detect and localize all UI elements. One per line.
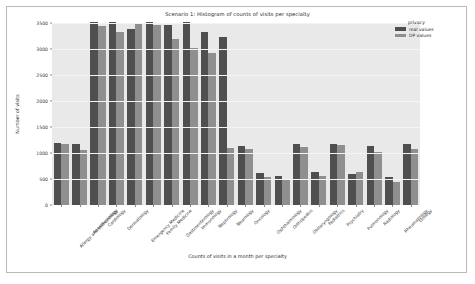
bar bbox=[411, 149, 419, 205]
bar bbox=[256, 173, 264, 205]
gridline bbox=[52, 127, 420, 128]
gridline bbox=[52, 153, 420, 154]
x-axis-tick-label: Psychiatry bbox=[346, 208, 365, 227]
x-axis-tick-mark bbox=[374, 205, 375, 207]
bar-group bbox=[236, 23, 254, 205]
chart-title: Scenario 1: Histogram of counts of visit… bbox=[0, 11, 475, 17]
x-axis-tick-mark bbox=[153, 205, 154, 207]
bar-group bbox=[144, 23, 162, 205]
gridline bbox=[52, 75, 420, 76]
legend-swatch bbox=[395, 27, 406, 31]
x-axis-tick-mark bbox=[392, 205, 393, 207]
x-axis-tick-mark bbox=[319, 205, 320, 207]
bar-group bbox=[89, 23, 107, 205]
bar bbox=[172, 39, 180, 205]
y-axis-label: Number of visits bbox=[15, 59, 20, 169]
x-axis-tick-mark bbox=[61, 205, 62, 207]
gridline bbox=[52, 101, 420, 102]
plot-area bbox=[52, 23, 420, 205]
bar bbox=[319, 176, 327, 205]
x-axis-tick-label: Dermatology bbox=[127, 208, 150, 231]
x-axis-tick-mark bbox=[116, 205, 117, 207]
bar-group bbox=[347, 23, 365, 205]
bar bbox=[245, 149, 253, 205]
bar-group bbox=[181, 23, 199, 205]
x-axis-tick-mark bbox=[208, 205, 209, 207]
bar bbox=[282, 180, 290, 205]
x-axis-tick-mark bbox=[135, 205, 136, 207]
x-axis-tick-mark bbox=[282, 205, 283, 207]
x-axis-tick-mark bbox=[190, 205, 191, 207]
bar bbox=[385, 177, 393, 205]
y-axis-tick-label: 2500 bbox=[36, 73, 48, 78]
legend-entry-label: real values bbox=[409, 27, 434, 32]
x-axis-tick-mark bbox=[337, 205, 338, 207]
bar-group bbox=[254, 23, 272, 205]
x-axis-tick-mark bbox=[245, 205, 246, 207]
x-axis-tick-label: Emergency Medicine bbox=[150, 208, 185, 243]
gridline bbox=[52, 49, 420, 50]
bar bbox=[80, 150, 88, 205]
bar bbox=[264, 177, 272, 205]
y-axis: Number of visits 05001000150020002500300… bbox=[0, 23, 52, 205]
y-axis-tick-label: 500 bbox=[39, 177, 48, 182]
x-axis-tick-label: Oncology bbox=[253, 208, 271, 226]
x-axis-tick-mark bbox=[411, 205, 412, 207]
legend-entries: real valuesDP values bbox=[395, 27, 463, 39]
bar-group bbox=[291, 23, 309, 205]
bar bbox=[367, 146, 375, 205]
bar-group bbox=[218, 23, 236, 205]
y-axis-tick-label: 0 bbox=[45, 203, 48, 208]
x-axis-tick-mark bbox=[300, 205, 301, 207]
bar bbox=[164, 25, 172, 205]
figure-canvas: Scenario 1: Histogram of counts of visit… bbox=[0, 0, 475, 284]
bar-group bbox=[273, 23, 291, 205]
bar bbox=[227, 148, 235, 205]
legend-entry: real values bbox=[395, 27, 463, 32]
y-axis-tick-label: 2000 bbox=[36, 99, 48, 104]
bar-group bbox=[383, 23, 401, 205]
y-axis-tick-label: 3500 bbox=[36, 21, 48, 26]
bar-group bbox=[107, 23, 125, 205]
bar-group bbox=[199, 23, 217, 205]
y-axis-tick-label: 3000 bbox=[36, 47, 48, 52]
legend-entry-label: DP values bbox=[409, 33, 431, 38]
x-axis-tick-mark bbox=[98, 205, 99, 207]
bar bbox=[356, 172, 364, 205]
bar bbox=[300, 147, 308, 205]
bar-group bbox=[162, 23, 180, 205]
x-axis-tick-mark bbox=[264, 205, 265, 207]
gridline bbox=[52, 23, 420, 24]
bar-series-container bbox=[52, 23, 420, 205]
x-axis-tick-mark bbox=[356, 205, 357, 207]
x-axis-tick-mark bbox=[172, 205, 173, 207]
bar bbox=[135, 24, 143, 205]
bar bbox=[238, 146, 246, 205]
bar-group bbox=[365, 23, 383, 205]
y-axis-tick-label: 1000 bbox=[36, 151, 48, 156]
bar bbox=[153, 25, 161, 205]
legend-entry: DP values bbox=[395, 33, 463, 38]
bar-group bbox=[52, 23, 70, 205]
legend: privacy real valuesDP values bbox=[395, 20, 463, 40]
bar-group bbox=[126, 23, 144, 205]
gridline bbox=[52, 179, 420, 180]
bar-group bbox=[70, 23, 88, 205]
y-axis-tick-label: 1500 bbox=[36, 125, 48, 130]
bar-group bbox=[310, 23, 328, 205]
legend-swatch bbox=[395, 34, 406, 38]
bar-group bbox=[328, 23, 346, 205]
x-axis: Allergy and ImmunologyAnesthesiologyCard… bbox=[52, 205, 420, 250]
legend-title: privacy bbox=[408, 20, 463, 25]
x-axis-tick-mark bbox=[227, 205, 228, 207]
bar-group bbox=[402, 23, 420, 205]
bar bbox=[337, 145, 345, 205]
bar bbox=[275, 176, 283, 205]
bar bbox=[393, 182, 401, 205]
x-axis-tick-mark bbox=[80, 205, 81, 207]
x-axis-label: Counts of visits in a month per specialt… bbox=[0, 253, 475, 259]
bar bbox=[311, 172, 319, 205]
